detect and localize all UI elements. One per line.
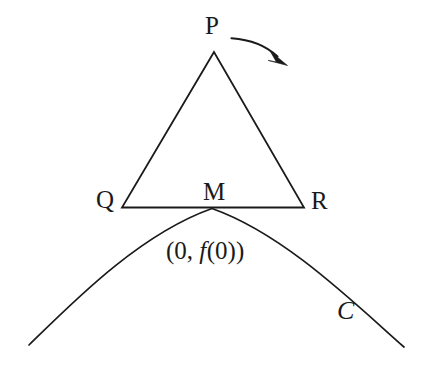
- coord-close: (0)): [207, 237, 244, 264]
- geometry-figure: P Q M R C (0, f(0)): [0, 0, 427, 365]
- label-c: C: [337, 298, 354, 324]
- coord-open: (0,: [166, 237, 199, 264]
- curved-arrow-icon: [232, 38, 288, 65]
- coord-function-f: f: [199, 237, 206, 264]
- label-m: M: [203, 179, 225, 204]
- label-q: Q: [96, 187, 114, 212]
- label-p: P: [205, 13, 219, 38]
- label-r: R: [311, 188, 328, 213]
- label-point-coordinates: (0, f(0)): [166, 238, 244, 263]
- curve-c-path: [29, 209, 404, 348]
